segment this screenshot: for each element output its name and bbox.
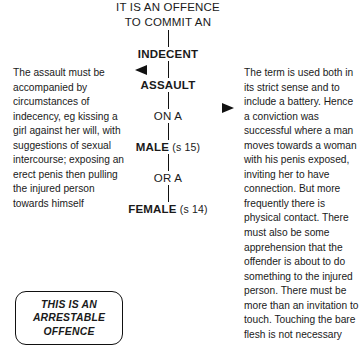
right-annotation-text: The term is used both in its strict sens… [244, 66, 359, 342]
diagram-title-line-2: TO COMMIT AN [112, 15, 224, 30]
arrestable-offence-box: THIS IS AN ARRESTABLE OFFENCE [15, 291, 123, 345]
arrestable-line-3: OFFENCE [33, 325, 105, 339]
left-arrowhead-icon [135, 65, 147, 75]
right-arrowhead-icon [222, 103, 234, 113]
arrestable-offence-text: THIS IS AN ARRESTABLE OFFENCE [33, 298, 105, 339]
connector-assault-to-on-a [168, 92, 169, 109]
diagram-title-line-1: IT IS AN OFFENCE [112, 0, 224, 15]
connector-title-to-indecent [168, 30, 169, 47]
node-female-section: (s 14) [177, 203, 208, 215]
node-male-section: (s 15) [169, 141, 200, 153]
node-male-label: MALE [136, 141, 169, 153]
connector-male-to-or-a [168, 154, 169, 171]
connector-on-a-to-male [168, 123, 169, 140]
node-female-label: FEMALE [128, 203, 176, 215]
arrestable-line-2: ARRESTABLE [33, 311, 105, 325]
arrestable-line-1: THIS IS AN [33, 298, 105, 312]
connector-or-a-to-female [168, 185, 169, 202]
connector-indecent-to-assault [168, 61, 169, 78]
left-annotation-text: The assault must be accompanied by circu… [13, 66, 131, 211]
node-indecent: INDECENT [112, 47, 224, 61]
